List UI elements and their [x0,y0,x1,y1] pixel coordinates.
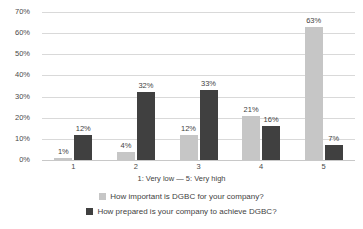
x-axis-tick-label-4: 4 [246,163,276,171]
bar-value-label: 16% [256,116,286,124]
y-axis-tick-label: 0% [0,156,30,164]
y-axis-tick-label: 60% [0,29,30,37]
bar-prepared-5[interactable] [325,145,343,160]
bar-value-label: 33% [194,80,224,88]
plot-area: 0%10%20%30%40%50%60%70%1%12%4%32%12%33%2… [42,12,355,160]
x-axis-tick-label-5: 5 [309,163,339,171]
x-axis-tick-label-2: 2 [121,163,151,171]
bar-value-label: 32% [131,82,161,90]
legend-swatch-icon-important [99,193,106,200]
x-axis-tick-label-1: 1 [58,163,88,171]
bar-important-2[interactable] [117,152,135,160]
bar-chart: 0%10%20%30%40%50%60%70%1%12%4%32%12%33%2… [0,0,363,229]
legend-item-important[interactable]: How important is DGBC for your company? [0,189,363,204]
legend-swatch-icon-prepared [86,208,93,215]
legend-label-prepared: How prepared is your company to achieve … [97,207,276,216]
bar-important-3[interactable] [180,135,198,160]
bar-prepared-2[interactable] [137,92,155,160]
x-axis-tick-label-3: 3 [184,163,214,171]
bar-value-label: 21% [236,106,266,114]
y-axis-tick-label: 20% [0,114,30,122]
y-axis-tick-label: 30% [0,93,30,101]
chart-legend: How important is DGBC for your company? … [0,189,363,219]
bar-value-label: 7% [319,135,349,143]
legend-label-important: How important is DGBC for your company? [110,192,263,201]
bar-prepared-4[interactable] [262,126,280,160]
bar-prepared-3[interactable] [200,90,218,160]
y-axis-tick-label: 70% [0,8,30,16]
y-axis-tick-label: 50% [0,50,30,58]
bar-important-1[interactable] [54,158,72,160]
y-axis-tick-label: 40% [0,71,30,79]
bar-value-label: 63% [299,17,329,25]
gridline [42,12,355,13]
legend-item-prepared[interactable]: How prepared is your company to achieve … [0,204,363,219]
bar-prepared-1[interactable] [74,135,92,160]
bar-value-label: 12% [68,125,98,133]
x-axis-line [42,160,355,161]
x-axis-title: 1: Very low — 5: Very high [0,174,363,183]
y-axis-tick-label: 10% [0,135,30,143]
